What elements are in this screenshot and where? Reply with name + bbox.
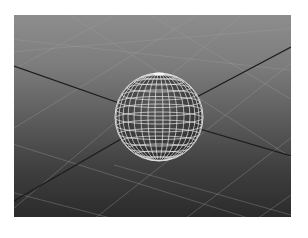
sphere-pole xyxy=(153,72,165,75)
scene-canvas[interactable] xyxy=(14,15,291,217)
wireframe-sphere[interactable] xyxy=(115,72,203,161)
3d-viewport[interactable] xyxy=(14,15,291,217)
